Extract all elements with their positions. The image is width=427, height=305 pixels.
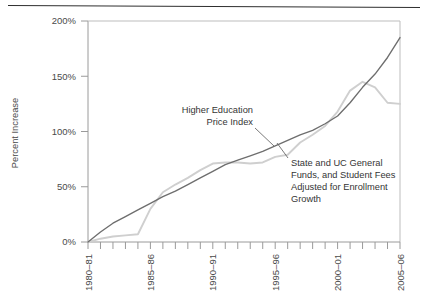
figure-container: 0%50%100%150%200% 1980–811985–861990–911… <box>0 0 427 305</box>
annotation-line: Higher Education <box>182 105 253 115</box>
x-tick-label: 1995–96 <box>270 254 281 291</box>
y-tick-label: 50% <box>57 181 77 192</box>
y-tick-label: 0% <box>62 236 76 247</box>
x-tick-label: 1980–81 <box>83 254 94 291</box>
x-tick-label: 1990–91 <box>207 254 218 291</box>
annotation-line: Adjusted for Enrollment <box>291 182 388 192</box>
x-tick-label: 1985–86 <box>145 254 156 291</box>
annotation-line: Growth <box>291 194 321 204</box>
hepi-annotation: Higher EducationPrice Index <box>182 105 254 127</box>
data-series-layer <box>88 38 400 242</box>
annotation-line: Funds, and Student Fees <box>291 170 396 180</box>
y-axis-ticks <box>81 21 88 242</box>
x-tick-label: 2000–01 <box>332 254 343 291</box>
y-axis-title: Percent Increase <box>10 98 20 168</box>
x-axis-tick-labels: 1980–811985–861990–911995–962000–012005–… <box>83 254 406 291</box>
x-tick-label: 2005–06 <box>395 254 406 291</box>
chart-plot-area: 0%50%100%150%200% 1980–811985–861990–911… <box>0 0 427 305</box>
x-axis-ticks <box>88 242 400 249</box>
plot-frame <box>88 21 400 242</box>
state-funds-annotation: State and UC GeneralFunds, and Student F… <box>291 158 396 204</box>
annotation-line: Price Index <box>206 117 253 127</box>
data-series-line <box>88 38 400 242</box>
y-tick-label: 150% <box>52 71 77 82</box>
y-tick-label: 200% <box>52 15 77 26</box>
y-tick-label: 100% <box>52 126 77 137</box>
y-axis-tick-labels: 0%50%100%150%200% <box>52 15 77 247</box>
annotation-line: State and UC General <box>291 158 382 168</box>
